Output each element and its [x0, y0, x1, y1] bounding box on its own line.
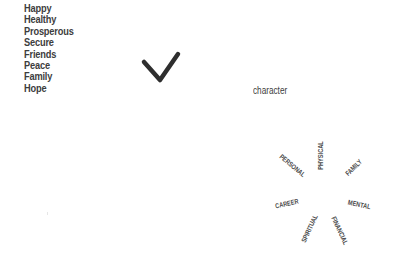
radial-word-financial: FINANCIAL: [330, 215, 349, 245]
radial-word-spiritual: SPIRITUAL: [300, 213, 319, 243]
radial-word-career: CAREER: [275, 197, 300, 209]
checkmark-icon: [140, 50, 182, 86]
stray-mark: [47, 212, 48, 215]
radial-word-physical: PHYSICAL: [318, 141, 325, 169]
radial-word-family: FAMILY: [344, 157, 363, 176]
radial-word-personal: PERSONAL: [278, 152, 306, 177]
radial-word-mental: MENTAL: [347, 198, 371, 210]
word-list: Happy Healthy Prosperous Secure Friends …: [24, 3, 80, 94]
caption-text: character: [253, 85, 287, 96]
word-list-item: Hope: [24, 83, 74, 94]
